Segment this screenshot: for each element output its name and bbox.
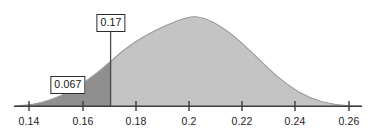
x-tick-label: 0.24 [284, 116, 305, 127]
x-tick-label: 0.26 [338, 116, 359, 127]
x-tick-label: 0.22 [231, 116, 252, 127]
tail-area-callout: 0.067 [50, 76, 85, 94]
cutoff-value-callout: 0.17 [96, 14, 125, 32]
x-tick-label: 0.16 [72, 116, 93, 127]
x-tick-label: 0.14 [18, 116, 39, 127]
x-tick-label: 0.2 [181, 116, 196, 127]
normal-distribution-chart: 0.14 0.16 0.18 0.2 0.22 0.24 0.26 0.17 0… [0, 0, 372, 138]
x-tick-label: 0.18 [125, 116, 146, 127]
curve-area-right [111, 17, 361, 106]
